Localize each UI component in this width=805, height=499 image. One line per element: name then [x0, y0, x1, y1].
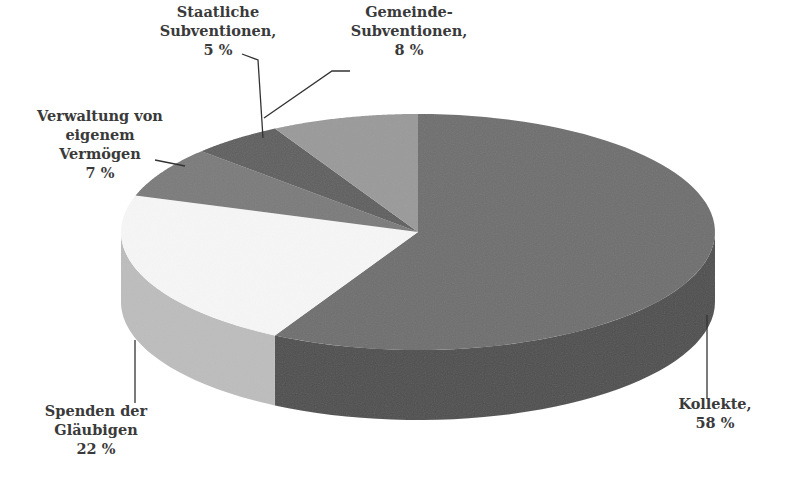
label-line: Staatliche: [177, 3, 259, 20]
label-line: Verwaltung von: [36, 107, 163, 124]
leader-line-gemeinde-subventionen: [264, 71, 350, 118]
label-line: Gläubigen: [54, 421, 138, 438]
leader-line-staatliche-subventionen: [242, 54, 263, 138]
label-verwaltung-von-eigenem-vermogen: Verwaltung voneigenemVermögen7 %: [36, 107, 163, 181]
label-line: Spenden der: [45, 402, 148, 419]
label-line: Vermögen: [58, 145, 141, 162]
label-gemeinde-subventionen: Gemeinde-Subventionen,8 %: [351, 3, 468, 58]
label-line: Gemeinde-: [365, 3, 453, 20]
label-line: eigenem: [65, 126, 135, 143]
label-line: 8 %: [395, 41, 424, 58]
pie-chart: Kollekte,58 %Spenden derGläubigen22 %Ver…: [0, 0, 805, 499]
label-line: 58 %: [695, 414, 734, 431]
label-line: 22 %: [76, 440, 115, 457]
label-line: Subventionen,: [160, 22, 277, 39]
label-line: 7 %: [86, 164, 115, 181]
label-line: Kollekte,: [678, 395, 751, 412]
pie-tops: [121, 114, 715, 350]
label-spenden-der-glaubigen: Spenden derGläubigen22 %: [45, 402, 148, 457]
label-line: Subventionen,: [351, 22, 468, 39]
label-line: 5 %: [204, 41, 233, 58]
label-staatliche-subventionen: StaatlicheSubventionen,5 %: [160, 3, 277, 58]
label-kollekte: Kollekte,58 %: [678, 395, 751, 431]
